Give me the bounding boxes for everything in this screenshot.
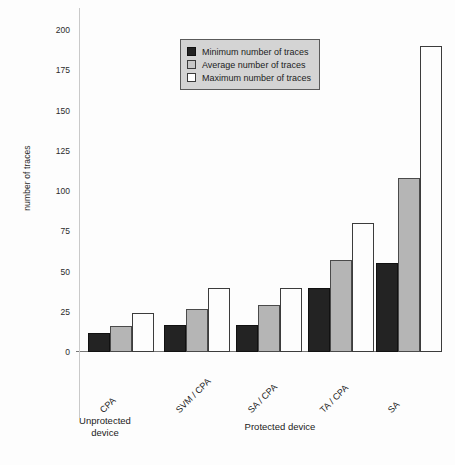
x-axis-label-ta-cpa: TA / CPA — [318, 383, 350, 415]
x-axis-label-sa-cpa: SA / CPA — [246, 382, 279, 415]
legend-swatch-average-icon — [187, 60, 196, 69]
bar-max-3 — [280, 288, 302, 352]
y-axis-tick-150: 150 — [26, 106, 70, 116]
x-axis-label-sa: SA — [386, 399, 402, 415]
bar-max-5 — [420, 46, 442, 352]
bar-group-sa-cpa — [236, 288, 302, 352]
legend-item: Maximum number of traces — [187, 71, 311, 84]
y-axis-tick-labels: 0255075100125150175200 — [26, 0, 70, 465]
bar-min-5 — [376, 263, 398, 352]
bar-max-2 — [208, 288, 230, 352]
legend-swatch-minimum-icon — [187, 47, 196, 56]
bar-min-1 — [88, 333, 110, 352]
group-label-protected-device: Protected device — [190, 421, 370, 433]
bar-group-cpa — [88, 313, 154, 352]
legend-swatch-maximum-icon — [187, 73, 196, 82]
bar-min-4 — [308, 288, 330, 352]
bar-max-4 — [352, 223, 374, 352]
bar-group-ta-cpa — [308, 223, 374, 352]
group-label-unprotected-device: Unprotected device — [60, 415, 150, 439]
x-axis-label-cpa: CPA — [98, 395, 118, 415]
y-axis-tick-100: 100 — [26, 186, 70, 196]
y-axis-tick-0: 0 — [26, 347, 70, 357]
bar-avg-2 — [186, 309, 208, 352]
legend-label-maximum: Maximum number of traces — [202, 73, 311, 83]
y-axis-tick-175: 175 — [26, 65, 70, 75]
bar-avg-5 — [398, 178, 420, 352]
legend-label-minimum: Minimum number of traces — [202, 47, 309, 57]
bar-chart-figure: number of traces 0255075100125150175200 … — [0, 0, 455, 465]
bar-min-3 — [236, 325, 258, 352]
bar-max-1 — [132, 313, 154, 352]
y-axis-tick-75: 75 — [26, 226, 70, 236]
y-axis-tick-50: 50 — [26, 267, 70, 277]
y-axis-tick-200: 200 — [26, 25, 70, 35]
legend: Minimum number of traces Average number … — [180, 39, 320, 90]
x-axis-label-svm-cpa: SVM / CPA — [174, 376, 213, 415]
y-axis-tick-125: 125 — [26, 146, 70, 156]
group-divider — [79, 8, 80, 418]
bar-avg-4 — [330, 260, 352, 352]
legend-label-average: Average number of traces — [202, 60, 305, 70]
bar-avg-1 — [110, 326, 132, 352]
legend-item: Average number of traces — [187, 58, 311, 71]
bar-avg-3 — [258, 305, 280, 352]
legend-item: Minimum number of traces — [187, 45, 311, 58]
bar-min-2 — [164, 325, 186, 352]
bar-group-sa — [376, 46, 442, 352]
bar-group-svm-cpa — [164, 288, 230, 352]
y-axis-tick-25: 25 — [26, 307, 70, 317]
